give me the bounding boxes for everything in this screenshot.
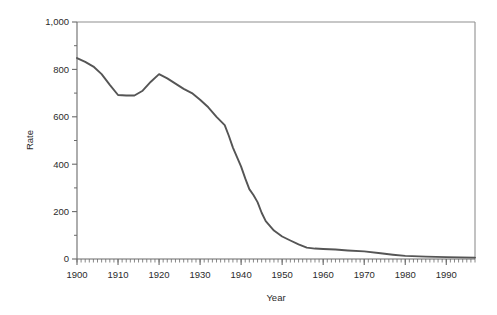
- x-tick-label: 1930: [190, 269, 211, 280]
- x-tick-label: 1910: [107, 269, 128, 280]
- x-tick-label: 1920: [148, 269, 169, 280]
- y-axis-title: Rate: [24, 130, 35, 150]
- x-axis-title: Year: [266, 292, 285, 303]
- x-tick-label: 1950: [272, 269, 293, 280]
- chart-figure: 02004006008001,000 190019101920193019401…: [0, 0, 497, 315]
- x-tick-label: 1970: [354, 269, 375, 280]
- y-tick-label: 400: [53, 159, 69, 170]
- data-series-line: [77, 58, 475, 258]
- y-tick-label: 800: [53, 64, 69, 75]
- line-chart: 02004006008001,000 190019101920193019401…: [0, 0, 497, 315]
- x-tick-label: 1980: [395, 269, 416, 280]
- x-axis-tick-labels: 1900191019201930194019501960197019801990: [66, 269, 456, 280]
- y-tick-label: 0: [64, 253, 69, 264]
- x-tick-label: 1900: [66, 269, 87, 280]
- x-tick-label: 1960: [313, 269, 334, 280]
- plot-frame: [77, 22, 475, 259]
- x-tick-label: 1990: [436, 269, 457, 280]
- x-tick-label: 1940: [231, 269, 252, 280]
- y-axis-tick-labels: 02004006008001,000: [45, 16, 69, 264]
- y-tick-label: 200: [53, 206, 69, 217]
- y-tick-label: 600: [53, 111, 69, 122]
- y-tick-label: 1,000: [45, 16, 69, 27]
